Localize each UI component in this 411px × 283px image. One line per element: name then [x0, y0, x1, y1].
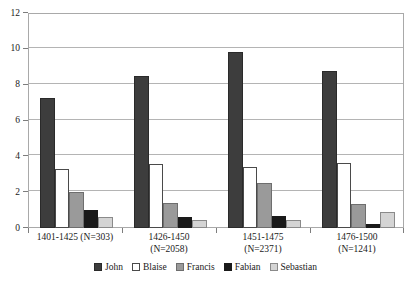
- bar-blaise: [55, 169, 70, 228]
- x-axis-label-line: (N=1241): [290, 244, 411, 256]
- x-axis: 1401-1425 (N=303)1426-1450(N=2058)1451-1…: [28, 228, 404, 260]
- bar-sebastian: [286, 220, 301, 228]
- legend-label: Francis: [187, 262, 215, 272]
- legend-item-john[interactable]: John: [94, 262, 123, 272]
- legend-label: Sebastian: [281, 262, 317, 272]
- bar-sebastian: [380, 212, 395, 228]
- bar-fabian: [178, 217, 193, 228]
- legend-swatch-icon: [224, 263, 232, 271]
- bar-francis: [163, 203, 178, 228]
- bars-layer: [28, 13, 404, 228]
- bar-francis: [257, 183, 272, 228]
- legend-swatch-icon: [176, 263, 184, 271]
- bar-blaise: [149, 164, 164, 229]
- legend-item-sebastian[interactable]: Sebastian: [270, 262, 317, 272]
- bar-chart: 024681012 1401-1425 (N=303)1426-1450(N=2…: [0, 0, 411, 283]
- y-axis-tick-label: 12: [11, 9, 21, 19]
- legend-item-francis[interactable]: Francis: [176, 262, 215, 272]
- legend-item-fabian[interactable]: Fabian: [224, 262, 261, 272]
- y-axis-tick-label: 6: [15, 116, 20, 126]
- legend-label: John: [105, 262, 123, 272]
- legend-label: Fabian: [235, 262, 261, 272]
- legend-swatch-icon: [94, 263, 102, 271]
- y-axis: 024681012: [0, 13, 28, 228]
- y-axis-tick-label: 2: [15, 188, 20, 198]
- legend-label: Blaise: [143, 262, 167, 272]
- bar-john: [134, 76, 149, 228]
- bar-fabian: [84, 210, 99, 228]
- bar-group: [216, 13, 310, 228]
- bar-john: [228, 52, 243, 228]
- y-axis-tick-label: 4: [15, 152, 20, 162]
- bar-sebastian: [98, 217, 113, 228]
- bar-sebastian: [192, 220, 207, 228]
- x-axis-label-line: 1476-1500: [290, 232, 411, 244]
- y-axis-tick-label: 8: [15, 80, 20, 90]
- bar-group: [28, 13, 122, 228]
- x-axis-group-label: 1476-1500(N=1241): [290, 232, 411, 255]
- bar-fabian: [272, 216, 287, 228]
- bar-john: [322, 71, 337, 228]
- y-axis-tick-label: 10: [11, 44, 21, 54]
- legend-swatch-icon: [132, 263, 140, 271]
- legend-swatch-icon: [270, 263, 278, 271]
- bar-blaise: [243, 167, 258, 228]
- bar-francis: [351, 204, 366, 228]
- bar-francis: [69, 192, 84, 228]
- bar-group: [310, 13, 404, 228]
- bar-group: [122, 13, 216, 228]
- bar-john: [40, 98, 55, 228]
- chart-legend: JohnBlaiseFrancisFabianSebastian: [0, 262, 411, 272]
- bar-blaise: [337, 163, 352, 228]
- legend-item-blaise[interactable]: Blaise: [132, 262, 167, 272]
